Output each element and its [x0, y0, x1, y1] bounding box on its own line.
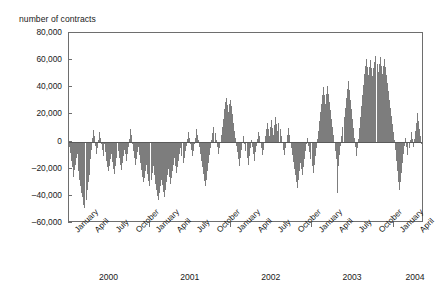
x-year-tick	[311, 222, 312, 227]
x-year-tick	[230, 222, 231, 227]
bars-layer	[69, 33, 422, 221]
x-year-label: 2004	[405, 272, 424, 282]
y-tick-label: 20,000	[36, 108, 62, 118]
plot-area	[68, 32, 423, 222]
bar	[333, 135, 334, 142]
y-tick-mark	[68, 59, 72, 60]
bar	[91, 142, 92, 150]
x-year-label: 2002	[261, 272, 280, 282]
bar	[131, 135, 132, 142]
y-tick-label: 80,000	[36, 27, 62, 37]
x-year-tick	[149, 222, 150, 227]
y-tick-mark	[68, 168, 72, 169]
y-tick-mark	[68, 141, 72, 142]
x-year-tick	[393, 222, 394, 227]
y-tick-mark	[68, 113, 72, 114]
y-axis-tick-labels: –60,000–40,000–20,000020,00040,00060,000…	[0, 32, 62, 222]
y-tick-label: –40,000	[32, 190, 62, 200]
y-tick-label: 0	[57, 136, 62, 146]
y-tick-mark	[68, 86, 72, 87]
y-tick-label: 60,000	[36, 54, 62, 64]
bar	[289, 135, 290, 142]
x-year-label: 2003	[342, 272, 361, 282]
bar	[97, 142, 98, 149]
y-tick-label: 40,000	[36, 81, 62, 91]
y-tick-label: –60,000	[32, 217, 62, 227]
bar	[409, 142, 410, 149]
bar	[210, 142, 211, 149]
bar	[219, 142, 220, 149]
bar-chart: number of contracts –60,000–40,000–20,00…	[0, 0, 440, 297]
y-tick-mark	[68, 195, 72, 196]
bar	[285, 142, 286, 149]
x-year-label: 2001	[180, 272, 199, 282]
y-axis-title: number of contracts	[19, 14, 96, 24]
zero-baseline	[69, 142, 422, 143]
bar	[316, 142, 317, 149]
bar	[250, 142, 251, 149]
y-tick-mark	[68, 32, 72, 33]
x-year-label: 2000	[99, 272, 118, 282]
y-tick-mark	[68, 222, 72, 223]
y-tick-label: –20,000	[32, 163, 62, 173]
bar	[357, 142, 358, 149]
